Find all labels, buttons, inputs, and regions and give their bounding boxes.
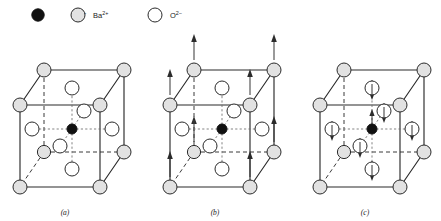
barium-atom <box>163 180 177 194</box>
barium-atom <box>37 63 51 77</box>
oxygen-atom <box>215 81 229 95</box>
barium-atom <box>187 145 200 158</box>
panel-label-a: (a) <box>61 208 70 217</box>
legend-label-barium: Ba2+ <box>93 10 108 20</box>
barium-atom <box>117 145 131 159</box>
oxygen-atom <box>77 104 91 118</box>
barium-atom <box>13 180 27 194</box>
barium-atom <box>393 180 407 194</box>
barium-atom <box>117 63 131 77</box>
oxygen-atom <box>227 104 241 118</box>
barium-atom <box>417 145 431 159</box>
barium-atom <box>313 180 327 194</box>
barium-atom <box>393 98 407 112</box>
barium-atom <box>93 180 107 194</box>
arrow-up-icon <box>167 69 173 95</box>
arrow-up-icon <box>247 69 253 95</box>
barium-atom <box>417 63 431 77</box>
oxygen-atom <box>105 122 119 136</box>
perovskite-structure-figure: Ti4+ Ba2+ O2− (a) <box>0 0 441 221</box>
barium-atom <box>267 63 281 77</box>
titanium-ion-marker-icon <box>32 9 44 21</box>
oxygen-atom <box>215 162 229 176</box>
barium-atom <box>337 63 351 77</box>
oxygen-atom <box>53 139 67 153</box>
arrow-up-icon <box>191 34 197 60</box>
barium-atom <box>243 98 257 112</box>
oxygen-atom <box>65 162 79 176</box>
oxygen-atom <box>175 122 189 136</box>
barium-atom <box>13 98 27 112</box>
oxygen-atom <box>203 139 217 153</box>
barium-atom <box>243 180 257 194</box>
legend-label-oxygen: O2− <box>170 10 182 20</box>
oxygen-atom <box>65 81 79 95</box>
barium-atom <box>337 145 350 158</box>
legend: Ti4+ Ba2+ O2− <box>32 8 182 22</box>
barium-atom <box>93 98 107 112</box>
barium-ion-marker-icon <box>71 8 85 22</box>
barium-atom <box>37 145 50 158</box>
oxygen-atom <box>25 122 39 136</box>
barium-atom <box>187 63 201 77</box>
barium-atom <box>313 98 327 112</box>
titanium-atom <box>367 124 377 134</box>
panel-c: (c) <box>313 63 431 217</box>
panel-a: (a) <box>13 63 131 217</box>
legend-item-oxygen: O2− <box>148 8 182 22</box>
titanium-atom <box>67 124 77 134</box>
barium-atom <box>267 145 281 159</box>
panel-b: (b) <box>163 34 281 217</box>
oxygen-ion-marker-icon <box>148 8 162 22</box>
titanium-atom <box>217 124 227 134</box>
legend-item-barium: Ba2+ <box>71 8 108 22</box>
arrow-up-icon <box>271 34 277 60</box>
oxygen-atom <box>255 122 269 136</box>
panel-label-c: (c) <box>361 208 370 217</box>
panel-label-b: (b) <box>211 208 220 217</box>
barium-atom <box>163 98 177 112</box>
